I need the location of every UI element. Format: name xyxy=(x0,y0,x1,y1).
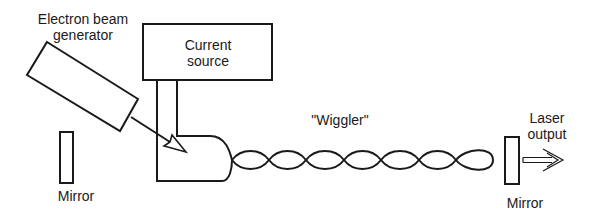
electron-beam-generator-box xyxy=(27,42,138,131)
laser-output-label-line2: output xyxy=(519,126,575,142)
laser-output-arrow-icon xyxy=(523,149,563,171)
electron-beam-arrow-shaft xyxy=(131,117,170,142)
current-lead-inner xyxy=(177,80,232,160)
wiggler-strand-a xyxy=(232,150,493,169)
current-source-label: Current source xyxy=(168,37,248,69)
mirror-left xyxy=(60,132,73,183)
electron-beam-generator-label-line1: Electron beam xyxy=(28,11,138,27)
laser-output-label-line1: Laser xyxy=(519,110,575,126)
electron-beam-arrow-head xyxy=(164,135,186,152)
mirror-left-label: Mirror xyxy=(46,188,106,204)
current-source-label-line1: Current xyxy=(168,37,248,53)
electron-beam-generator-label-line2: generator xyxy=(28,27,138,43)
electron-beam-generator-label: Electron beam generator xyxy=(28,11,138,43)
wiggler-strand-b xyxy=(232,151,493,170)
current-source-label-line2: source xyxy=(168,53,248,69)
mirror-right-label: Mirror xyxy=(495,195,555,211)
mirror-right xyxy=(505,137,519,184)
laser-output-label: Laser output xyxy=(519,110,575,142)
wiggler-label: "Wiggler" xyxy=(300,112,380,128)
current-lead-outer xyxy=(157,80,232,181)
